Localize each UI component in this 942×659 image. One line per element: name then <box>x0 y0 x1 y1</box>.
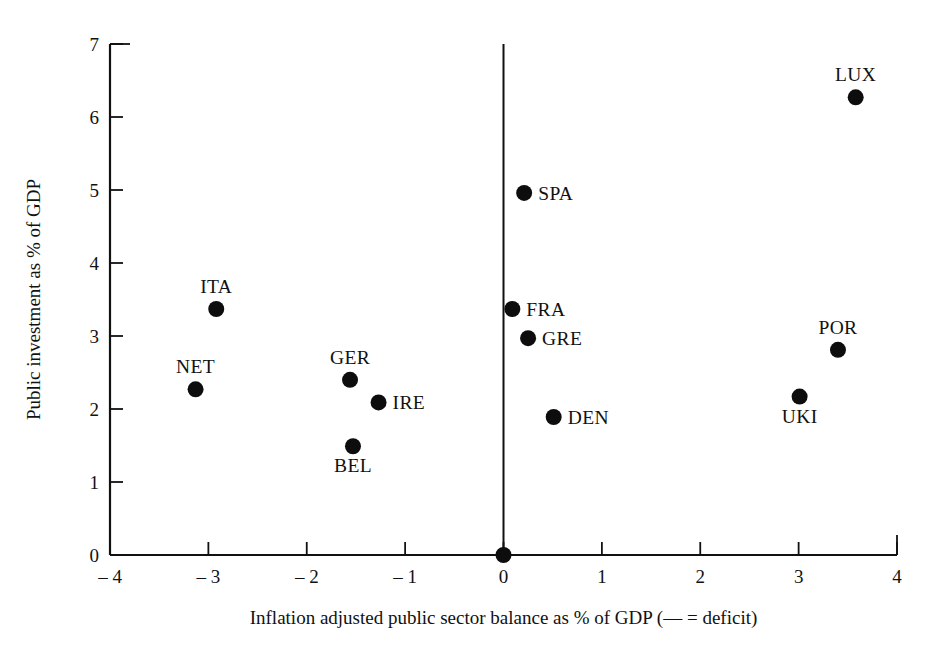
data-point-label: UKI <box>782 406 818 427</box>
data-point[interactable]: LUX <box>835 64 876 105</box>
data-point[interactable]: GRE <box>520 328 582 349</box>
data-point-marker <box>496 547 512 563</box>
x-axis-tick-label: 0 <box>499 566 509 587</box>
y-axis-tick-label: 3 <box>90 326 100 347</box>
scatter-plot-figure: 01234567– 4– 3– 2– 101234 LUXSPAITAFRAGR… <box>0 0 942 659</box>
y-axis-tick-label: 0 <box>90 545 100 566</box>
data-point-marker <box>345 438 361 454</box>
data-points-group: LUXSPAITAFRAGREPORGERNETUKIIREDENBEL <box>176 64 876 563</box>
data-point-label: NET <box>176 356 215 377</box>
data-point-label: DEN <box>568 407 609 428</box>
data-point[interactable]: ITA <box>200 276 232 317</box>
x-axis-tick-label: – 1 <box>392 566 417 587</box>
x-axis-tick-label: – 4 <box>97 566 122 587</box>
y-axis-tick-label: 4 <box>90 253 100 274</box>
data-point-marker <box>830 342 846 358</box>
x-axis-tick-label: – 3 <box>196 566 221 587</box>
data-point-label: BEL <box>334 455 372 476</box>
data-point[interactable] <box>496 547 512 563</box>
data-point[interactable]: FRA <box>504 299 565 320</box>
x-axis-tick-label: – 2 <box>294 566 319 587</box>
data-point-marker <box>546 409 562 425</box>
data-point-label: SPA <box>538 183 573 204</box>
data-point[interactable]: NET <box>176 356 215 397</box>
scatter-plot-canvas: 01234567– 4– 3– 2– 101234 LUXSPAITAFRAGR… <box>0 0 942 659</box>
data-point[interactable]: IRE <box>371 392 426 413</box>
data-point-marker <box>188 381 204 397</box>
data-point[interactable]: SPA <box>516 183 573 204</box>
data-point-marker <box>516 185 532 201</box>
x-axis-tick-label: 4 <box>892 566 902 587</box>
data-point[interactable]: DEN <box>546 407 609 428</box>
data-point-label: GER <box>330 347 370 368</box>
data-point-label: LUX <box>835 64 876 85</box>
axis-titles-group: Inflation adjusted public sector balance… <box>23 179 757 629</box>
y-axis-title: Public investment as % of GDP <box>23 179 44 420</box>
y-axis-tick-label: 5 <box>90 180 100 201</box>
data-point[interactable]: UKI <box>782 389 818 427</box>
data-point-label: POR <box>818 317 857 338</box>
x-axis-tick-label: 3 <box>794 566 804 587</box>
data-point-marker <box>520 330 536 346</box>
y-axis-tick-label: 1 <box>90 472 100 493</box>
data-point-marker <box>342 372 358 388</box>
data-point[interactable]: GER <box>330 347 370 388</box>
y-axis-tick-label: 6 <box>90 107 100 128</box>
data-point-label: IRE <box>393 392 426 413</box>
data-point[interactable]: POR <box>818 317 857 358</box>
data-point-marker <box>792 389 808 405</box>
x-axis-title: Inflation adjusted public sector balance… <box>250 607 758 629</box>
data-point-label: ITA <box>200 276 232 297</box>
data-point-label: GRE <box>542 328 582 349</box>
data-point-label: FRA <box>526 299 565 320</box>
x-axis-tick-label: 2 <box>696 566 706 587</box>
y-axis-tick-label: 2 <box>90 399 100 420</box>
data-point[interactable]: BEL <box>334 438 372 476</box>
data-point-marker <box>504 301 520 317</box>
y-axis-tick-label: 7 <box>90 34 100 55</box>
x-axis-tick-label: 1 <box>597 566 607 587</box>
data-point-marker <box>371 394 387 410</box>
data-point-marker <box>848 89 864 105</box>
data-point-marker <box>208 301 224 317</box>
